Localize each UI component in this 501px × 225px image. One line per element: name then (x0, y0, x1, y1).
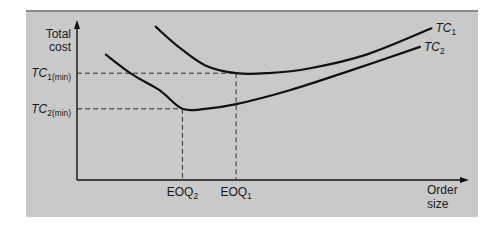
series-label-tc2: TC2 (424, 40, 445, 56)
y-ref-label-2-subscript: 2(min) (47, 108, 71, 118)
y-ref-label-2-main: TC (31, 102, 47, 116)
series-label-tc2-main: TC (424, 40, 440, 54)
x-axis-arrow-icon (460, 177, 469, 183)
data-labels: TC1(min)TC2(min)EOQ2EOQ1TC1TC2 (31, 21, 456, 201)
y-ref-label-2: TC2(min) (31, 102, 71, 118)
y-axis-label-line1: Total (46, 27, 71, 41)
y-ref-label-1-main: TC (31, 66, 47, 80)
y-ref-label-1-subscript: 1(min) (47, 72, 71, 82)
x-axis-label-line2: size (427, 197, 449, 211)
x-axis-label-line1: Order (427, 183, 458, 197)
series-label-tc1: TC1 (436, 21, 457, 37)
y-axis-label-line2: cost (49, 40, 72, 54)
series-label-tc1-subscript: 1 (452, 27, 457, 37)
cost-curves (106, 27, 432, 111)
eoq-cost-chart: Total cost Order size TC1(min)TC2(min)EO… (0, 0, 501, 225)
series-label-tc2-subscript: 2 (440, 46, 445, 56)
x-tick-label-eoq2-main: EOQ (167, 185, 194, 199)
x-tick-label-eoq2-subscript: 2 (193, 191, 198, 201)
x-tick-label-eoq1: EOQ1 (220, 185, 252, 201)
x-tick-label-eoq2: EOQ2 (167, 185, 199, 201)
y-ref-label-1: TC1(min) (31, 66, 71, 82)
series-label-tc1-main: TC (436, 21, 452, 35)
x-tick-label-eoq1-subscript: 1 (247, 191, 252, 201)
curve-tc1 (156, 27, 432, 74)
axes (74, 20, 469, 183)
x-tick-label-eoq1-main: EOQ (220, 185, 247, 199)
y-axis-arrow-icon (74, 20, 80, 29)
curve-tc2 (106, 47, 420, 110)
